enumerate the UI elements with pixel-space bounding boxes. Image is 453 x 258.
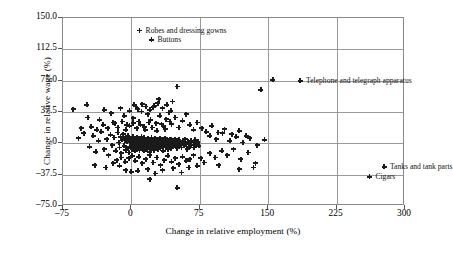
data-point [135,107,140,112]
data-point [180,118,185,123]
data-point [164,117,169,122]
point-annotation-label: Buttons [153,36,181,44]
data-point [91,133,96,138]
gridline-horizontal [63,175,403,176]
data-point [112,135,117,140]
data-point [133,158,138,163]
data-point [238,157,243,162]
plot-area: Robes and dressing gownsButtonsTelephone… [62,17,404,205]
x-tick-label: 0 [105,209,155,218]
data-point [162,158,167,163]
data-point [102,147,107,152]
x-tick-mark [267,205,268,209]
data-point [114,158,119,163]
x-tick-label: ‒75 [37,209,87,218]
data-point [153,136,158,141]
data-point [108,132,113,137]
data-point [161,148,166,153]
data-point [229,132,234,137]
data-point [111,120,116,125]
data-point [141,137,146,142]
data-point [175,146,180,151]
data-point [125,146,130,151]
data-point [163,127,168,132]
data-point [123,148,128,153]
data-point [118,134,123,139]
data-point [119,155,124,160]
data-point [105,126,110,131]
y-tick-label: ‒75.0 [13,200,57,209]
y-tick-mark [58,80,62,81]
data-point [175,185,180,190]
data-point [147,137,152,142]
gridline-vertical [200,18,201,204]
x-tick-mark [404,205,405,209]
data-point [151,105,156,110]
data-point [117,145,122,150]
data-point [87,144,92,149]
data-point [160,144,165,149]
data-point [171,166,176,171]
data-point [175,84,180,89]
data-point [247,136,252,141]
data-point [171,144,176,149]
data-point [111,161,116,166]
data-point [123,168,128,173]
data-point [237,167,242,172]
data-point [147,153,152,158]
data-point [169,159,174,164]
data-point [176,125,181,130]
data-point [187,144,192,149]
data-point [216,163,221,168]
data-point [134,126,139,131]
data-point [183,137,188,142]
data-point [155,147,160,152]
y-tick-mark [58,142,62,143]
data-point [143,104,148,109]
data-point [258,87,263,92]
data-point [251,165,256,170]
point-annotation-label: Cigars [371,173,395,181]
data-point [119,151,124,156]
data-point [139,134,144,139]
data-point [234,134,239,139]
data-point [164,145,169,150]
data-point [154,137,159,142]
data-point [156,97,161,102]
data-point [184,158,189,163]
data-point [137,148,142,153]
data-point [135,168,140,173]
data-point [79,126,84,131]
data-point [158,137,163,142]
data-point [164,137,169,142]
data-point [154,145,159,150]
data-point [115,130,120,135]
data-point [167,119,172,124]
x-tick-label: 75 [174,209,224,218]
data-point [207,133,212,138]
y-tick-label: 75.0 [13,75,57,84]
data-point [94,127,99,132]
data-point [169,122,174,127]
y-tick-mark [58,48,62,49]
data-point [118,106,123,111]
y-tick-label: 0 [13,137,57,146]
data-point [148,117,153,122]
gridline-vertical [131,18,132,204]
data-point [71,107,76,112]
data-point [214,137,219,142]
data-point [143,137,148,142]
data-point [146,120,151,125]
data-point [213,155,218,160]
data-point [147,149,152,154]
data-point [225,153,230,158]
data-point [222,127,227,132]
y-tick-mark [58,111,62,112]
data-point [124,122,129,127]
data-point [101,122,106,127]
data-point [209,123,214,128]
data-point [165,147,170,152]
data-point [193,137,198,142]
data-point [140,102,145,107]
data-point [117,163,122,168]
